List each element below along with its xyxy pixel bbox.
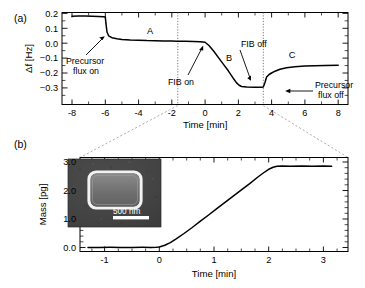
panel-b-ytick-0: 3.0 [63, 157, 76, 167]
panel-b-xtick-2: 1 [211, 255, 216, 265]
region-label-a: A [147, 26, 154, 36]
panel-a-xtick-0: -8 [68, 108, 76, 118]
panel-b-ytick-2: 1.0 [63, 214, 76, 224]
annot-fib-on: FIB on [168, 77, 194, 87]
annot-precursor-flux-off-line1: Precursor [315, 80, 353, 90]
panel-b-xtick-0: -1 [101, 255, 109, 265]
panel-a-xtick-2: -4 [135, 108, 143, 118]
panel-b-label: (b) [14, 138, 27, 150]
panel-a-ytick-4: −0.2 [40, 68, 58, 78]
panel-a-xtick-4: 0 [203, 108, 208, 118]
panel-a-xtick-3: -2 [168, 108, 176, 118]
panel-b-xtick-1: 0 [157, 255, 162, 265]
panel-b-xtick-3: 2 [266, 255, 271, 265]
panel-a-xtick-7: 6 [302, 108, 307, 118]
panel-b-ylabel: Mass [pg] [37, 184, 48, 226]
sem-scalebar-label: 500 nm [113, 207, 140, 216]
panel-a-xtick-8: 8 [336, 108, 341, 118]
annot-precursor-flux-on-line2: flux on [73, 66, 99, 76]
panel-b-xlabel: Time [min] [192, 268, 236, 279]
region-label-b: B [226, 53, 232, 63]
panel-a-xtick-1: -6 [101, 108, 109, 118]
annot-fib-off: FIB off [241, 39, 267, 49]
panel-a-ytick-0: 0.2 [45, 9, 58, 19]
panel-a-xlabel: Time [min] [183, 119, 227, 130]
figure-container: (a) (b) 0.2 0.1 0.0 −0.1 −0.2 −0.3 -8 -6… [0, 0, 365, 288]
panel-a-ytick-5: −0.3 [40, 83, 58, 93]
panel-a-ytick-2: 0.0 [45, 39, 58, 49]
region-label-c: C [289, 50, 296, 60]
panel-a-xtick-5: 2 [236, 108, 241, 118]
annot-precursor-flux-off-line2: flux off [318, 90, 344, 100]
panel-b-ytick-3: 0.0 [63, 243, 76, 253]
panel-b-ytick-1: 2.0 [63, 186, 76, 196]
panel-a-ytick-3: −0.1 [40, 53, 58, 63]
panel-b-xtick-4: 3 [321, 255, 326, 265]
annot-precursor-flux-on-line1: Precursor [66, 56, 104, 66]
panel-a-label: (a) [14, 12, 27, 24]
panel-a-ytick-1: 0.1 [45, 24, 58, 34]
text-layer: (a) (b) 0.2 0.1 0.0 −0.1 −0.2 −0.3 -8 -6… [0, 0, 365, 288]
panel-a-xtick-6: 4 [269, 108, 274, 118]
panel-a-ylabel: Δf [Hz] [23, 44, 34, 73]
